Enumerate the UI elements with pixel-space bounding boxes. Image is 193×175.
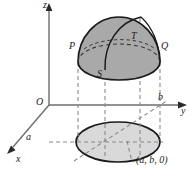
coordinate-label-abzero: (a, b, 0) <box>136 155 168 165</box>
axis-label-z: z <box>43 0 47 10</box>
dome-body <box>78 17 160 80</box>
origin-label-O: O <box>36 97 43 107</box>
axis-mark-label-b: b <box>158 92 163 102</box>
dome-group <box>78 17 160 80</box>
point-label-S: S <box>97 69 102 79</box>
point-label-Q: Q <box>161 41 168 51</box>
figure-canvas <box>0 0 193 175</box>
axis-mark-label-a: a <box>26 132 31 142</box>
point-label-T: T <box>131 31 137 41</box>
geometry-figure: z y x O a b P Q T S (a, b, 0) <box>0 0 193 175</box>
point-label-P: P <box>69 41 75 51</box>
x-axis-line <box>13 105 49 147</box>
axis-label-x: x <box>16 154 20 164</box>
axis-label-y: y <box>181 106 185 116</box>
x-axis-arrowhead <box>7 145 16 154</box>
